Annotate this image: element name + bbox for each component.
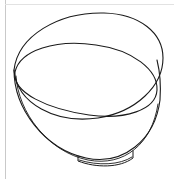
bowl-line-drawing: [0, 0, 174, 179]
outer-rim-ellipse: [14, 13, 163, 119]
image-canvas: [0, 0, 174, 179]
bowl-strokes: [14, 13, 163, 166]
bowl-body-outline: [14, 60, 160, 159]
